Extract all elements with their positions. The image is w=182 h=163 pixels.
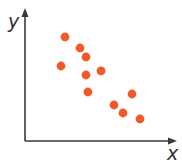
data-point — [76, 44, 85, 53]
data-points — [57, 33, 145, 124]
data-point — [61, 33, 70, 42]
data-point — [136, 115, 145, 124]
data-point — [82, 53, 91, 62]
x-axis-label: x — [166, 142, 179, 163]
data-point — [128, 90, 137, 99]
y-axis-arrow-icon — [22, 8, 29, 17]
data-point — [84, 88, 93, 97]
data-point — [57, 62, 66, 71]
scatter-chart: y x — [0, 0, 182, 163]
data-point — [97, 67, 106, 76]
data-point — [110, 101, 119, 110]
y-axis-label: y — [7, 10, 20, 32]
data-point — [82, 71, 91, 80]
data-point — [119, 109, 128, 118]
